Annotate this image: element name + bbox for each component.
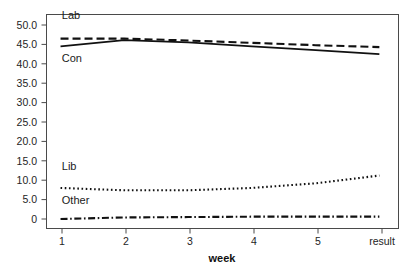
x-tick-label-5: 5 [315,235,321,247]
chart-container: 0 5.0 10.0 15.0 20.0 25.0 30.0 35.0 40.0… [0,0,416,272]
series-line-lab [61,39,380,48]
x-tick-label-2: 2 [123,235,129,247]
line-chart: 0 5.0 10.0 15.0 20.0 25.0 30.0 35.0 40.0… [0,0,416,272]
plot-frame [47,15,399,229]
x-axis-tick-labels: 1 2 3 4 5 result [59,235,395,247]
y-tick-label-5: 5.0 [22,193,37,205]
x-tick-label-3: 3 [187,235,193,247]
x-tick-label-4: 4 [251,235,257,247]
series-label-other: Other [62,194,90,206]
y-tick-label-50: 50.0 [17,19,38,31]
y-tick-label-30: 30.0 [17,96,38,108]
y-tick-label-45: 45.0 [17,38,38,50]
y-axis-ticks [42,25,47,219]
series-label-lab: Lab [62,9,80,21]
cropped-caption-text [2,259,212,270]
series-line-lib [61,176,380,191]
series-label-lib: Lib [62,160,77,172]
y-tick-label-25: 25.0 [17,116,38,128]
y-tick-label-35: 35.0 [17,77,38,89]
series-line-other [61,217,380,219]
y-tick-label-15: 15.0 [17,155,38,167]
x-axis-ticks [62,229,382,234]
x-tick-label-result: result [369,235,395,247]
series-group [61,39,380,219]
y-tick-label-0: 0 [31,213,37,225]
x-tick-label-1: 1 [59,235,65,247]
y-tick-label-40: 40.0 [17,58,38,70]
y-tick-label-20: 20.0 [17,135,38,147]
y-axis-tick-labels: 0 5.0 10.0 15.0 20.0 25.0 30.0 35.0 40.0… [17,19,38,225]
series-label-con: Con [62,52,82,64]
y-tick-label-10: 10.0 [17,174,38,186]
